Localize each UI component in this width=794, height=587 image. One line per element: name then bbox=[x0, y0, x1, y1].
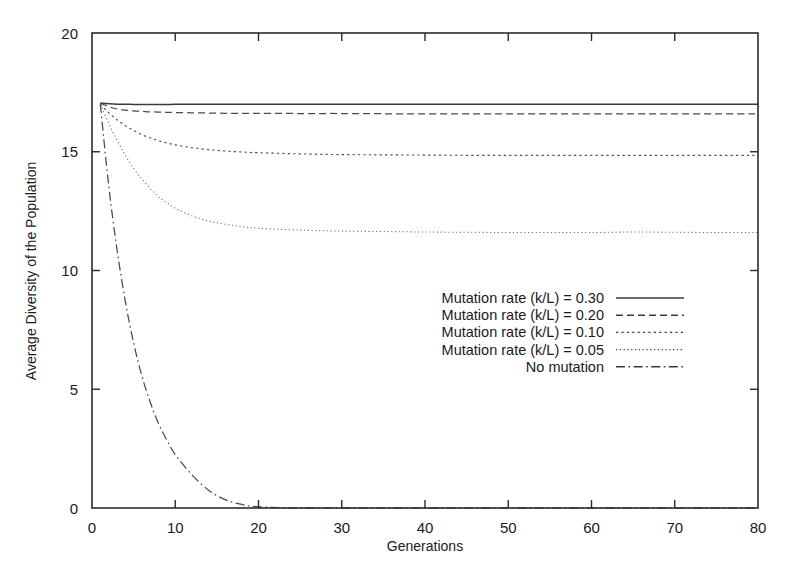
chart-background bbox=[0, 0, 794, 587]
x-tick-label: 30 bbox=[333, 519, 350, 536]
x-axis-title: Generations bbox=[387, 538, 463, 554]
legend-label: No mutation bbox=[526, 359, 604, 375]
x-tick-label: 0 bbox=[88, 519, 96, 536]
x-tick-label: 70 bbox=[666, 519, 683, 536]
chart-figure: 01020304050607080 05101520 Generations A… bbox=[0, 0, 794, 587]
x-tick-label: 10 bbox=[167, 519, 184, 536]
x-tick-label: 60 bbox=[583, 519, 600, 536]
y-tick-label: 5 bbox=[70, 381, 78, 398]
x-tick-label: 50 bbox=[500, 519, 517, 536]
y-tick-label: 20 bbox=[61, 25, 78, 42]
y-axis-title: Average Diversity of the Population bbox=[23, 162, 39, 380]
y-tick-label: 15 bbox=[61, 143, 78, 160]
x-tick-label: 20 bbox=[250, 519, 267, 536]
line-chart: 01020304050607080 05101520 Generations A… bbox=[0, 0, 794, 587]
x-tick-label: 40 bbox=[417, 519, 434, 536]
legend-label: Mutation rate (k/L) = 0.30 bbox=[442, 290, 604, 306]
legend-label: Mutation rate (k/L) = 0.05 bbox=[442, 342, 604, 358]
y-tick-label: 10 bbox=[61, 262, 78, 279]
y-tick-label: 0 bbox=[70, 500, 78, 517]
x-tick-label: 80 bbox=[750, 519, 767, 536]
legend-label: Mutation rate (k/L) = 0.10 bbox=[442, 324, 604, 340]
legend-label: Mutation rate (k/L) = 0.20 bbox=[442, 307, 604, 323]
